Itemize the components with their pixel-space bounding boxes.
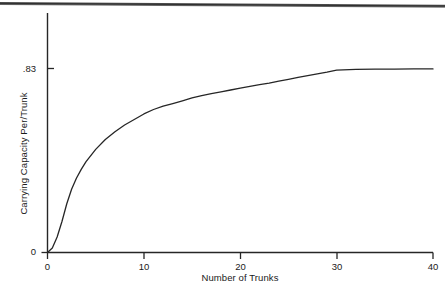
x-tick-marks [48, 253, 434, 260]
y-axis-title: Carrying Capacity Per/Trunk [18, 69, 29, 239]
x-tick-label-20: 20 [226, 261, 256, 272]
x-tick-label-40: 40 [418, 261, 445, 272]
x-axis-title: Number of Trunks [145, 272, 335, 283]
y-tick-label-0: 0 [6, 246, 36, 257]
x-tick-label-30: 30 [322, 261, 352, 272]
plot-area [0, 0, 445, 287]
x-tick-label-0: 0 [33, 261, 63, 272]
data-curve [48, 69, 434, 253]
figure-panel: .83 0 0 10 20 30 40 Carrying Capacity Pe… [0, 0, 445, 287]
x-tick-label-10: 10 [129, 261, 159, 272]
